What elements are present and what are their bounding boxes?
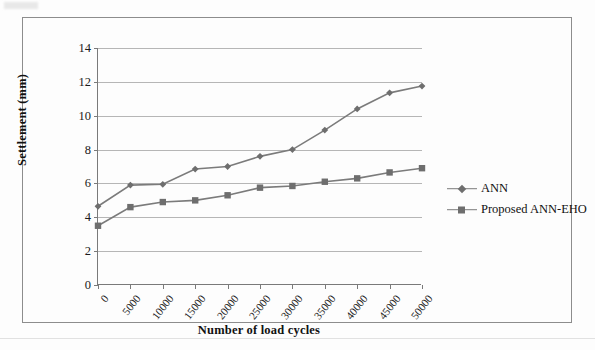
data-point-marker [419,83,426,90]
data-point-marker [257,184,263,190]
scan-artifact-top [4,2,38,9]
data-point-marker [127,204,133,210]
legend-label: ANN [481,181,508,196]
x-tick-label: 20000 [215,293,241,321]
legend-label: Proposed ANN-EHO [481,202,587,217]
data-point-marker [257,153,264,160]
y-tick-label: 8 [85,143,91,156]
x-tick-mark [130,285,131,289]
y-tick-label: 14 [79,42,92,55]
y-tick-label: 12 [79,76,92,89]
data-point-marker [224,163,231,170]
x-tick-label: 10000 [150,293,176,321]
data-point-marker [386,169,392,175]
data-point-marker [354,175,360,181]
x-tick-mark [390,285,391,289]
x-tick-mark [98,285,99,289]
x-tick-label: 15000 [182,293,208,321]
x-tick-label: 35000 [312,293,338,321]
page-canvas: Settlement (mm) 02468101214 050001000015… [0,0,595,350]
data-series-layer [98,48,422,285]
figure-frame: Settlement (mm) 02468101214 050001000015… [22,17,572,323]
plot-area: 02468101214 0500010000150002000025000300… [97,48,421,285]
y-tick-label: 10 [79,109,92,122]
x-tick-mark [357,285,358,289]
x-tick-mark [292,285,293,289]
legend-item-proposed-ann-eho[interactable]: Proposed ANN-EHO [447,199,587,220]
data-point-marker [159,181,166,188]
x-tick-label: 50000 [409,293,435,321]
x-tick-label: 0 [99,293,111,304]
x-axis-title: Number of load cycles [97,323,421,338]
data-point-marker [386,89,393,96]
legend-diamond-marker-icon [447,183,477,195]
x-tick-mark [260,285,261,289]
legend-square-marker-icon [447,204,477,216]
x-tick-label: 45000 [377,293,403,321]
data-point-marker [289,183,295,189]
data-point-marker [289,146,296,153]
x-tick-label: 5000 [121,293,143,317]
x-tick-mark [195,285,196,289]
legend-item-ann[interactable]: ANN [447,178,587,199]
data-point-marker [95,223,101,229]
y-tick-label: 2 [85,245,91,258]
scan-artifact-bottom-line [0,338,595,339]
data-point-marker [192,197,198,203]
y-axis-title: Settlement (mm) [15,74,30,166]
x-tick-mark [228,285,229,289]
x-tick-mark [325,285,326,289]
x-tick-label: 30000 [279,293,305,321]
data-point-marker [224,192,230,198]
y-tick-label: 6 [85,177,91,190]
series-line-proposed-ann-eho [98,168,422,226]
x-tick-mark [422,285,423,289]
x-tick-mark [163,285,164,289]
x-tick-label: 25000 [247,293,273,321]
x-tick-label: 40000 [344,293,370,321]
y-tick-label: 0 [85,279,91,292]
y-tick-label: 4 [85,211,91,224]
data-point-marker [322,179,328,185]
data-point-marker [160,199,166,205]
chart-legend: ANNProposed ANN-EHO [447,178,587,220]
data-point-marker [192,166,199,173]
data-point-marker [419,165,425,171]
